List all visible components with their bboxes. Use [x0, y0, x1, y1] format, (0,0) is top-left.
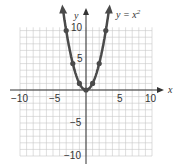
tick-x-10: 10 [145, 93, 157, 104]
chart: x y y = x2 −10 −5 5 10 10 5 −5 −10 [0, 0, 184, 166]
equation-label: y = x2 [115, 8, 141, 20]
data-point [97, 61, 102, 66]
tick-x-neg10: −10 [11, 93, 28, 104]
tick-y-neg10: −10 [64, 150, 81, 161]
data-point [103, 28, 108, 33]
x-axis-arrow-icon [157, 87, 164, 93]
tick-x-5: 5 [117, 93, 123, 104]
y-axis-label: y [73, 10, 79, 21]
data-point [70, 61, 75, 66]
x-axis-label: x [167, 84, 173, 95]
data-point [83, 87, 88, 92]
data-point [77, 81, 82, 86]
tick-y-10: 10 [71, 22, 83, 33]
y-axis-arrow-icon [83, 8, 89, 15]
tick-x-neg5: −5 [49, 93, 61, 104]
data-point [64, 28, 69, 33]
tick-y-5: 5 [77, 53, 83, 64]
data-point [90, 81, 95, 86]
tick-y-neg5: −5 [70, 117, 82, 128]
